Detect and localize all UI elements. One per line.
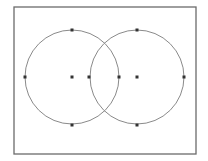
diagram-canvas: [0, 0, 208, 161]
point-right-center: [136, 76, 139, 79]
circles-group: [25, 30, 184, 124]
point-right-right: [183, 76, 186, 79]
point-right-top: [136, 29, 139, 32]
point-right-left: [88, 76, 91, 79]
point-left-top: [71, 29, 74, 32]
point-left-bottom: [71, 124, 74, 127]
point-left-center: [71, 76, 74, 79]
diagram-frame: [14, 7, 196, 154]
point-right-bottom: [136, 124, 139, 127]
point-left-right: [118, 76, 121, 79]
point-left-left: [24, 76, 27, 79]
